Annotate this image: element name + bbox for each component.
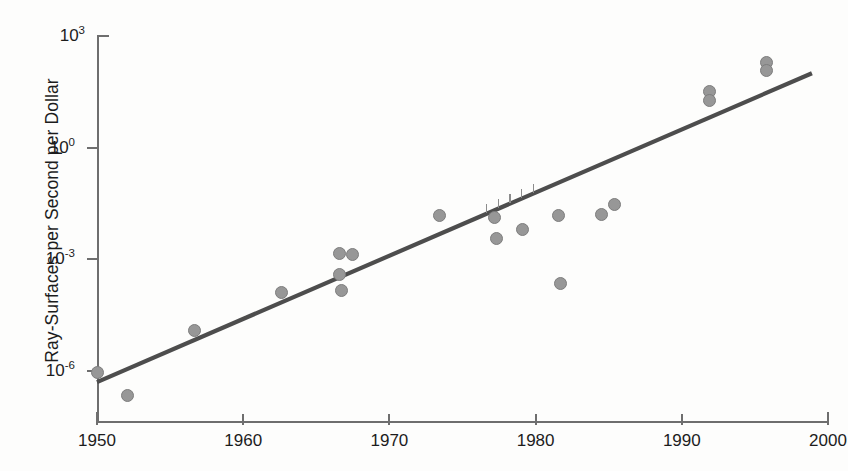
y-tick-label: 10-6 [46, 361, 75, 381]
y-tick-label: 100 [50, 138, 75, 158]
x-tick-label: 2000 [809, 431, 847, 451]
x-tick-label: 1960 [224, 431, 262, 451]
data-point [490, 232, 503, 245]
x-tick-label: 1990 [663, 431, 701, 451]
chart-figure: Ray-Surfaces per Second per Dollar 10310… [0, 0, 848, 471]
hatch-mark [521, 189, 522, 198]
data-point [91, 366, 104, 379]
x-tick-label: 1970 [370, 431, 408, 451]
plot-area: 10310010-310-6 195019601970198019902000 [97, 36, 828, 423]
hatch-mark [509, 194, 510, 203]
data-point [516, 223, 529, 236]
x-tick-label: 1950 [78, 431, 116, 451]
data-point [275, 286, 288, 299]
hatch-mark [533, 184, 534, 193]
data-point [433, 209, 446, 222]
data-point [595, 208, 608, 221]
hatch-mark [486, 204, 487, 213]
data-point [703, 94, 716, 107]
y-tick-label: 10-3 [46, 249, 75, 269]
data-point [554, 277, 567, 290]
hatch-mark [498, 199, 499, 208]
data-point [335, 284, 348, 297]
x-tick-label: 1980 [517, 431, 555, 451]
y-tick-label: 103 [60, 26, 85, 46]
trend-line [97, 36, 828, 423]
